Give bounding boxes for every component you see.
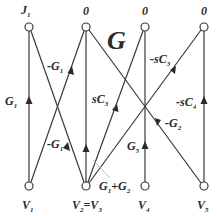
arrow-icon — [63, 142, 70, 151]
label-j1: J1 — [21, 4, 31, 19]
edge-label-sc3: sC3 — [92, 93, 108, 108]
label-v1: V1 — [22, 199, 34, 214]
node-top-4 — [200, 23, 208, 31]
edge-label-g5: G5 — [127, 140, 139, 155]
node-v4 — [141, 182, 149, 190]
edge-v23-selfloop — [93, 160, 110, 178]
node-v1 — [25, 182, 33, 190]
edge-label-neg-sc3: -sC3 — [150, 53, 170, 68]
node-v23 — [82, 182, 90, 190]
label-v5: V5 — [197, 199, 209, 214]
arrow-icon — [170, 66, 176, 74]
label-top-2: 0 — [83, 5, 89, 17]
edge-label-g1-plus-g2: G1+G2 — [99, 180, 130, 195]
label-v4: V4 — [138, 199, 150, 214]
arrow-icon — [26, 96, 33, 104]
edge-label-neg-g2: -G2 — [165, 117, 181, 132]
arrow-icon — [83, 144, 90, 152]
node-j1 — [25, 23, 33, 31]
arrow-icon — [201, 96, 208, 104]
edge-label-neg-g1-lower: -G1 — [47, 138, 63, 153]
edge-label-neg-sc4: -sC4 — [176, 96, 196, 111]
edge-label-neg-g1-upper: -G1 — [47, 60, 63, 75]
graph-title: G — [107, 28, 126, 54]
arrow-icon — [112, 104, 119, 112]
arrow-icon — [142, 141, 149, 149]
node-v5 — [200, 182, 208, 190]
label-v23: V2=V3 — [72, 199, 102, 214]
label-top-3: 0 — [142, 5, 148, 17]
edge-label-g1: G1 — [5, 95, 17, 110]
node-top-2 — [82, 23, 90, 31]
label-top-4: 0 — [201, 5, 207, 17]
node-top-3 — [141, 23, 149, 31]
